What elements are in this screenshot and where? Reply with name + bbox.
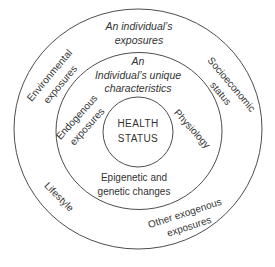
inner-circle — [103, 97, 173, 167]
outer-circle — [14, 9, 262, 249]
middle-circle — [56, 53, 222, 210]
concentric-rings — [0, 0, 275, 267]
health-status-diagram: HEALTH STATUS An Individual’s unique cha… — [0, 0, 275, 267]
